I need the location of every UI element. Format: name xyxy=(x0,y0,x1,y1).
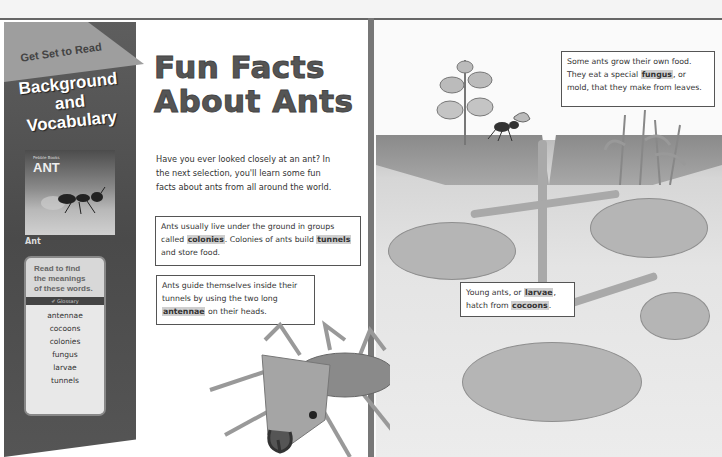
title-line: About Ants xyxy=(154,84,354,118)
main-tunnel xyxy=(538,140,547,300)
chamber-larvae xyxy=(388,222,516,280)
book-cover: Pebble Books ANT xyxy=(25,150,115,235)
page-title: Fun Facts About Ants xyxy=(154,50,354,118)
prompt-line: of these words. xyxy=(34,284,98,294)
vocab-word: colonies xyxy=(26,335,104,348)
fact-box-colonies: Ants usually live under the ground in gr… xyxy=(155,216,361,266)
fact-text: Ants guide themselves inside their tunne… xyxy=(162,281,297,303)
textbook-spread: Get Set to Read Background and Vocabular… xyxy=(0,0,722,457)
fact-text: Young ants, or xyxy=(466,288,524,297)
vocab-word: tunnels xyxy=(26,374,104,387)
vocab-term: cocoons xyxy=(511,301,549,310)
vocab-term: fungus xyxy=(641,70,673,79)
vocab-term: antennae xyxy=(162,307,205,316)
vocab-term: larvae xyxy=(524,288,553,297)
fact-text: . Colonies of ants build xyxy=(225,235,317,244)
intro-paragraph: Have you ever looked closely at an ant? … xyxy=(156,152,336,194)
ant-carrying-leaf xyxy=(484,105,534,145)
vocab-word: antennae xyxy=(26,309,104,322)
chamber-fungus xyxy=(462,342,642,422)
vocab-word: larvae xyxy=(26,361,104,374)
cover-title: ANT xyxy=(33,160,60,175)
glossary-label: Glossary xyxy=(57,298,79,304)
vocab-word: fungus xyxy=(26,348,104,361)
vocabulary-prompt: Read to find the meanings of these words… xyxy=(26,258,104,297)
chamber-queen xyxy=(640,292,710,340)
fact-box-antennae: Ants guide themselves inside their tunne… xyxy=(156,275,315,325)
glossary-header: ✐ Glossary xyxy=(26,297,104,305)
prompt-line: the meanings xyxy=(34,274,98,284)
vocab-term: tunnels xyxy=(316,235,351,244)
vocabulary-card: Read to find the meanings of these words… xyxy=(24,256,106,416)
title-line: Fun Facts xyxy=(154,50,354,84)
vocab-word: cocoons xyxy=(26,322,104,335)
vocab-term: colonies xyxy=(187,235,225,244)
vocabulary-list: antennae cocoons colonies fungus larvae … xyxy=(26,305,104,415)
fact-box-larvae: Young ants, or larvae, hatch from cocoon… xyxy=(460,282,575,317)
plant-illustration-right xyxy=(600,105,690,185)
fact-box-fungus: Some ants grow their own food. They eat … xyxy=(561,51,715,107)
fact-text: . xyxy=(549,301,551,310)
prompt-line: Read to find xyxy=(34,264,98,274)
ant-photo-icon xyxy=(37,185,107,215)
fact-text: on their heads. xyxy=(205,307,266,316)
chamber-cocoons xyxy=(590,198,708,258)
large-ant-illustration xyxy=(170,320,390,457)
fact-text: and store food. xyxy=(161,248,220,257)
cover-caption: Ant xyxy=(25,237,41,246)
